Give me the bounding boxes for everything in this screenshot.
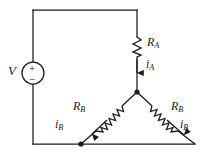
label-resistor-b-right: RB <box>171 100 183 112</box>
node-dot-bottom-left <box>78 141 83 146</box>
label-resistor-a: RA <box>147 36 159 48</box>
wire-right-branch-upper <box>137 92 152 106</box>
label-current-b-right: iB <box>180 118 188 130</box>
label-source-v: V <box>8 64 16 77</box>
label-resistor-b-left: RB <box>73 100 85 112</box>
node-dot-center <box>134 89 139 94</box>
label-resistor-a-subscript: A <box>154 41 159 50</box>
label-current-a-subscript: A <box>149 63 154 72</box>
label-current-b-left-subscript: B <box>58 123 63 132</box>
source-minus-sign: − <box>29 74 35 85</box>
label-current-b-right-subscript: B <box>183 123 188 132</box>
resistor-b-left-zigzag <box>96 106 124 132</box>
label-current-b-left: iB <box>55 118 63 130</box>
label-source-v-symbol: V <box>8 63 16 78</box>
resistor-a-zigzag <box>133 37 141 57</box>
label-resistor-b-right-subscript: B <box>178 105 183 114</box>
wire-left-branch-upper <box>122 92 137 106</box>
label-current-a: iA <box>146 58 154 70</box>
circuit-diagram: + − V RA iA RB RB iB iB <box>0 0 201 159</box>
wire-right-branch-lower <box>178 131 195 144</box>
label-resistor-b-left-subscript: B <box>80 105 85 114</box>
